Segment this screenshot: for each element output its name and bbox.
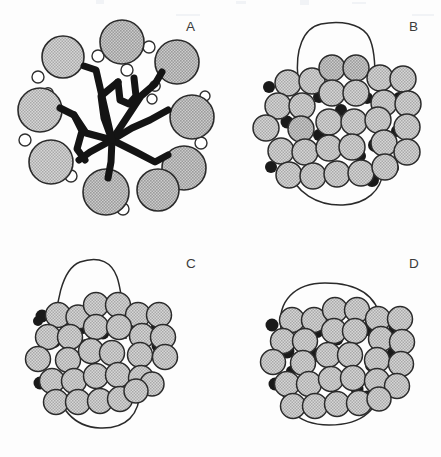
panel-label-a: A (186, 20, 196, 34)
panel-label-d: D (409, 257, 419, 271)
panel-a-network (60, 66, 168, 178)
panel-d: D (221, 229, 441, 457)
panel-a: A (0, 0, 220, 228)
panel-d-graphic (221, 229, 441, 457)
panel-label-c: C (186, 257, 196, 271)
panel-c: C (0, 229, 220, 457)
panel-b: B (221, 0, 441, 228)
panel-b-large-circles (253, 55, 421, 189)
panel-a-large-circles (18, 20, 214, 215)
panel-d-large-circles (261, 298, 415, 419)
panel-label-b: B (409, 20, 419, 34)
panel-a-graphic (0, 0, 220, 228)
panel-b-graphic (221, 0, 441, 228)
figure-container: A (0, 0, 441, 457)
panel-c-large-circles (26, 293, 178, 415)
